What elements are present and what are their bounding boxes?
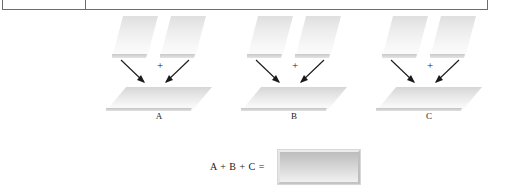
flat-plane-shape xyxy=(376,87,482,111)
slanted-plane-shape xyxy=(382,16,428,58)
shape-face xyxy=(106,87,212,111)
shape-face xyxy=(160,16,206,58)
shape-face xyxy=(112,16,158,58)
diagram-canvas: + A + xyxy=(0,11,508,193)
table-bottom-remnant xyxy=(0,0,508,11)
flat-plane-shape xyxy=(241,87,347,111)
plus-operator: + xyxy=(153,59,167,71)
slanted-plane-shape xyxy=(247,16,293,58)
shape-face xyxy=(430,16,476,58)
combination-group-c: + C xyxy=(368,11,508,131)
solid-gray-block xyxy=(278,150,360,184)
shape-face xyxy=(382,16,428,58)
slanted-plane-shape xyxy=(160,16,206,58)
shape-face xyxy=(247,16,293,58)
summary-row: A + B + C = xyxy=(210,148,380,193)
combine-row: + xyxy=(233,57,383,89)
arrow-down-right-icon xyxy=(251,57,291,87)
plus-operator: + xyxy=(423,59,437,71)
arrow-down-right-icon xyxy=(386,57,426,87)
combine-row: + xyxy=(368,57,508,89)
flat-plane-shape xyxy=(106,87,212,111)
result-label-c: C xyxy=(376,111,482,122)
shape-face xyxy=(241,87,347,111)
slanted-plane-shape xyxy=(295,16,341,58)
combination-group-a: + A xyxy=(98,11,248,131)
plus-operator: + xyxy=(288,59,302,71)
arrow-down-right-icon xyxy=(116,57,156,87)
result-label-b: B xyxy=(241,111,347,122)
shape-face xyxy=(376,87,482,111)
slanted-plane-shape xyxy=(430,16,476,58)
slanted-plane-shape xyxy=(112,16,158,58)
sum-expression: A + B + C = xyxy=(210,160,265,174)
combination-group-b: + B xyxy=(233,11,383,131)
shape-face xyxy=(295,16,341,58)
result-label-a: A xyxy=(106,111,212,122)
table-bottom-rule xyxy=(2,9,488,10)
combine-row: + xyxy=(98,57,248,89)
